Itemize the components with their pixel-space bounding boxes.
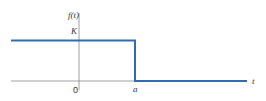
x-axis-label: t bbox=[252, 77, 255, 86]
series-line bbox=[11, 41, 247, 82]
a-tick-label: a bbox=[133, 85, 138, 94]
zero-tick-label: 0 bbox=[73, 86, 78, 95]
step-function-chart: f(t) K 0 a t bbox=[0, 0, 266, 101]
k-tick-label: K bbox=[71, 27, 77, 36]
y-axis-label: f(t) bbox=[68, 11, 79, 20]
